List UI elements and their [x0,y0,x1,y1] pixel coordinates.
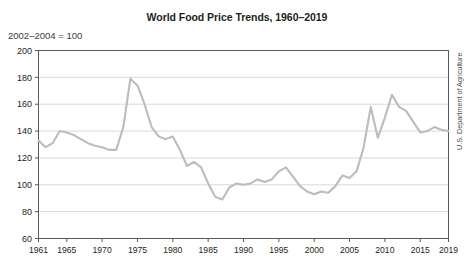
plot-frame [39,51,449,239]
x-tick-label: 1965 [57,245,76,255]
data-series-line [39,79,449,200]
x-tick-label: 1980 [163,245,182,255]
y-tick-label: 180 [17,73,32,83]
x-axis-ticks [39,239,449,243]
x-tick-label: 1985 [199,245,218,255]
x-tick-label: 2005 [340,245,359,255]
y-axis-ticks [35,51,39,239]
y-tick-label: 140 [17,126,32,136]
x-tick-label: 1990 [234,245,253,255]
y-tick-label: 160 [17,99,32,109]
x-tick-label: 1961 [29,245,48,255]
line-chart-plot: 6080100120140160180200 19611965197019751… [0,0,474,273]
chart-container: World Food Price Trends, 1960–2019 2002–… [0,0,474,273]
x-axis-labels: 1961196519701975198019851990199520002005… [29,245,458,255]
y-tick-label: 200 [17,46,32,56]
y-tick-label: 80 [22,207,32,217]
x-tick-label: 2019 [439,245,458,255]
y-tick-label: 60 [22,234,32,244]
x-tick-label: 1995 [269,245,288,255]
x-tick-label: 2000 [305,245,324,255]
y-tick-label: 100 [17,180,32,190]
x-tick-label: 2010 [375,245,394,255]
y-axis-labels: 6080100120140160180200 [17,46,32,244]
x-tick-label: 2015 [411,245,430,255]
y-tick-label: 120 [17,153,32,163]
gridlines [39,77,449,211]
x-tick-label: 1970 [93,245,112,255]
x-tick-label: 1975 [128,245,147,255]
source-attribution: U.S. Department of Agriculture [455,53,464,150]
